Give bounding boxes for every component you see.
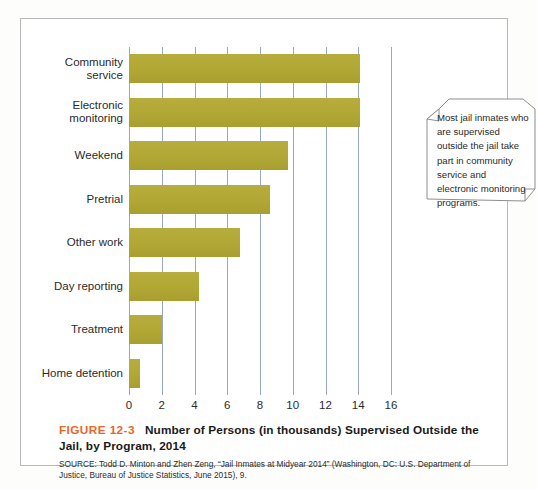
bar <box>129 185 270 214</box>
x-tick-label-6: 6 <box>224 399 230 411</box>
category-label: Home detention <box>31 367 123 380</box>
bar <box>129 141 288 170</box>
bar <box>129 315 162 344</box>
callout-note: Most jail inmates who are supervised out… <box>425 97 537 207</box>
x-tick-label-10: 10 <box>286 399 299 411</box>
category-label: Community service <box>31 56 123 82</box>
x-tick-label-8: 8 <box>257 399 263 411</box>
bar-row <box>129 47 360 91</box>
figure-number: FIGURE 12-3 <box>59 423 135 437</box>
category-label: Other work <box>31 236 123 249</box>
bar <box>129 98 360 127</box>
bar-row <box>129 91 360 135</box>
bar-row <box>129 134 288 178</box>
bar-row <box>129 178 270 222</box>
x-tick-label-2: 2 <box>159 399 165 411</box>
bar <box>129 228 240 257</box>
bar <box>129 272 199 301</box>
figure-frame: Community service Electronic monitoring … <box>20 18 508 466</box>
figure-source: SOURCE: Todd D. Minton and Zhen Zeng, “J… <box>59 459 479 482</box>
category-label: Treatment <box>31 323 123 336</box>
x-tick-label-0: 0 <box>126 399 132 411</box>
bar-row <box>129 352 140 396</box>
scanned-page: Community service Electronic monitoring … <box>0 0 537 489</box>
x-tick-label-16: 16 <box>385 399 398 411</box>
category-label: Day reporting <box>31 280 123 293</box>
x-axis-tick-labels: 0246810121416 <box>129 399 431 417</box>
bar-row <box>129 308 162 352</box>
bar-row <box>129 221 240 265</box>
x-tick-label-4: 4 <box>191 399 197 411</box>
category-axis-labels: Community service Electronic monitoring … <box>27 47 123 395</box>
bar-series <box>129 47 431 395</box>
plot-area <box>129 47 431 395</box>
bar-row <box>129 265 199 309</box>
category-label: Electronic monitoring <box>31 99 123 125</box>
bar <box>129 359 140 388</box>
bar <box>129 54 360 83</box>
x-tick-label-14: 14 <box>352 399 365 411</box>
figure-caption: FIGURE 12-3 Number of Persons (in thousa… <box>59 423 479 482</box>
category-label: Pretrial <box>31 193 123 206</box>
callout-text: Most jail inmates who are supervised out… <box>437 111 529 210</box>
x-tick-label-12: 12 <box>319 399 332 411</box>
category-label: Weekend <box>31 149 123 162</box>
caption-title: FIGURE 12-3 Number of Persons (in thousa… <box>59 423 479 454</box>
